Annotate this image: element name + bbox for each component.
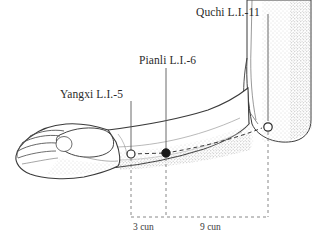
upper-arm-group xyxy=(247,0,314,148)
point-marker-pianli xyxy=(162,149,170,157)
point-label-pianli: Pianli L.I.-6 xyxy=(139,54,196,66)
point-marker-quchi xyxy=(264,123,272,131)
point-label-yangxi: Yangxi L.I.-5 xyxy=(60,88,123,100)
arm-illustration xyxy=(0,0,323,251)
anatomical-figure: Quchi L.I.-11 Pianli L.I.-6 Yangxi L.I.-… xyxy=(0,0,323,251)
measurement-label-9-cun: 9 cun xyxy=(200,222,221,232)
thumb-tip xyxy=(56,137,72,152)
hand-group xyxy=(16,124,124,180)
measurement-label-3-cun: 3 cun xyxy=(133,222,154,232)
point-marker-yangxi xyxy=(127,150,135,158)
point-label-quchi: Quchi L.I.-11 xyxy=(196,6,260,18)
upper-arm-stipple-edge xyxy=(290,0,314,148)
forearm-group xyxy=(100,88,256,180)
